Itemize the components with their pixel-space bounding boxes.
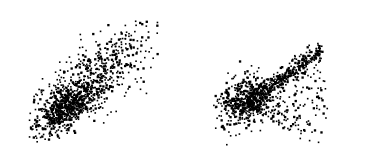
scatter-canvas-left (19, 14, 166, 152)
scatter-panel-right (206, 14, 354, 152)
scatter-panel-left (19, 14, 166, 152)
scatter-canvas-right (206, 14, 354, 152)
figure-root (0, 0, 372, 166)
